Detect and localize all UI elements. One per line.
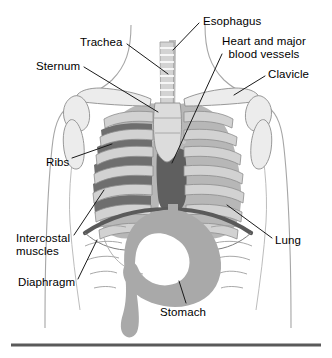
- label-esophagus: Esophagus: [203, 15, 261, 28]
- label-lung: Lung: [275, 234, 301, 247]
- clavicle-left: [77, 88, 151, 106]
- label-intercostal-muscles: Intercostal muscles: [16, 232, 70, 257]
- label-sternum: Sternum: [36, 60, 80, 73]
- label-ribs: Ribs: [46, 156, 69, 169]
- label-diaphragm: Diaphragm: [18, 276, 75, 289]
- label-stomach: Stomach: [160, 306, 206, 319]
- anatomy-figure: Trachea Esophagus Heart and major blood …: [0, 0, 332, 358]
- label-trachea: Trachea: [80, 36, 122, 49]
- leader-esophagus: [173, 23, 199, 50]
- esophagus-stomach-junction: [168, 204, 178, 212]
- clavicle-right: [184, 88, 258, 106]
- label-heart-and-major-blood-vessels: Heart and major blood vessels: [222, 35, 306, 60]
- label-clavicle: Clavicle: [268, 68, 309, 81]
